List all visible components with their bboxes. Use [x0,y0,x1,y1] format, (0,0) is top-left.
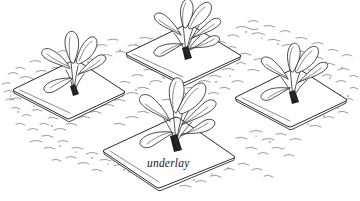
underlay-mat-left [13,60,125,122]
underlay-diagram: underlay [0,0,360,201]
underlay-mat-top-center [126,24,241,86]
underlay-mat-front: underlay [103,117,235,191]
underlay-caption: underlay [147,157,190,170]
illustration-canvas: underlay [0,0,360,201]
